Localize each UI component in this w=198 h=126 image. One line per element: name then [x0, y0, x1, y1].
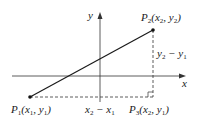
p3-y: , y [151, 103, 161, 115]
vdist-y1-sub: 1 [183, 53, 187, 61]
point-p3-label: P3(x2, y1) [129, 104, 169, 117]
horizontal-distance-label: x2 − x1 [85, 104, 115, 117]
p3-close: ) [165, 103, 169, 115]
p3-name: P [129, 103, 136, 115]
p2-name: P [141, 11, 148, 23]
vertical-distance-label: y2 − y1 [157, 48, 187, 61]
p2-y: , y [163, 11, 173, 23]
segment-p1-p2 [30, 30, 153, 97]
x-axis-label: x [182, 78, 187, 89]
p1-name: P [11, 103, 18, 115]
p1-x: (x [21, 103, 30, 115]
point-p1-label: P1(x1, y1) [11, 104, 51, 117]
hdist-x1-sub: 1 [111, 109, 115, 117]
right-angle-marker [148, 92, 153, 97]
p2-close: ) [177, 11, 181, 23]
hdist-x1: − x [93, 103, 111, 115]
p3-x: (x [139, 103, 148, 115]
vdist-y1: − y [165, 47, 183, 59]
p1-close: ) [47, 103, 51, 115]
y-axis-arrow-icon [98, 12, 103, 19]
p2-x: (x [151, 11, 160, 23]
point-p2 [151, 28, 155, 32]
y-axis-label: y [88, 10, 93, 21]
p1-y: , y [33, 103, 43, 115]
point-p1 [28, 95, 32, 99]
point-p2-label: P2(x2, y2) [141, 12, 181, 25]
